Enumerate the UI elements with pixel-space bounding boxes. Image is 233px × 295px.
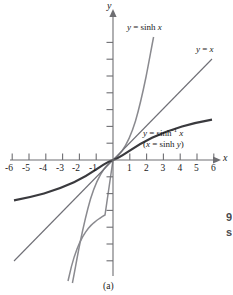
x-tick-label-2: 2 [144, 163, 149, 174]
curve-label-arcsinh-exponent: -1 [172, 126, 177, 133]
curve-label-arcsinh-inv-lhs: x [146, 139, 150, 149]
x-tick-label--2: -2 [72, 163, 80, 174]
curve-label-sinh-eq: = [133, 22, 138, 32]
x-tick-label--5: -5 [22, 163, 30, 174]
x-tick-label-3: 3 [161, 163, 166, 174]
curve-label-arcsinh-line1: y = sinh-1 x [143, 128, 184, 138]
curve-label-arcsinh-arg: x [179, 128, 183, 138]
x-tick-label-5: 5 [194, 163, 199, 174]
x-tick-label--3: -3 [56, 163, 64, 174]
curve-label-sinh-lhs: y [127, 22, 131, 32]
figure-container: y x -6 -5 -4 -3 -2 -1 1 2 3 4 5 6 y = si… [0, 0, 233, 295]
x-tick-label-1: 1 [127, 163, 132, 174]
x-tick-label--6: -6 [5, 163, 13, 174]
curve-label-identity: y = x [196, 44, 214, 54]
margin-text-fragment-2: s [226, 226, 232, 238]
x-tick-label-4: 4 [178, 163, 183, 174]
curve-label-arcsinh-inv-fn: sinh [160, 139, 175, 149]
curve-label-sinh-arg: x [158, 22, 162, 32]
x-tick-label--4: -4 [39, 163, 47, 174]
curve-sinh [68, 160, 113, 281]
curve-label-arcsinh-inv-eq: = [152, 139, 157, 149]
x-axis-label: x [223, 152, 227, 163]
curve-label-identity-arg: x [210, 44, 214, 54]
curve-label-arcsinh-fn: sinh [157, 128, 172, 138]
y-axis-label: y [107, 0, 111, 11]
curve-label-arcsinh-line2: (x = sinh y) [143, 139, 184, 149]
figure-caption: (a) [103, 281, 114, 291]
curve-label-arcsinh: y = sinh-1 x (x = sinh y) [143, 128, 184, 150]
curve-label-sinh: y = sinh x [127, 22, 162, 32]
curve-label-arcsinh-lhs: y [143, 128, 147, 138]
curve-label-identity-lhs: y [196, 44, 200, 54]
curve-label-sinh-fn: sinh [141, 22, 156, 32]
x-tick-label--1: -1 [89, 163, 97, 174]
curve-label-identity-eq: = [202, 44, 207, 54]
margin-text-fragment-1: 9 [226, 211, 232, 223]
curve-label-arcsinh-eq: = [149, 128, 154, 138]
curve-label-arcsinh-paren-close: ) [181, 139, 184, 149]
x-tick-label-6: 6 [211, 163, 216, 174]
